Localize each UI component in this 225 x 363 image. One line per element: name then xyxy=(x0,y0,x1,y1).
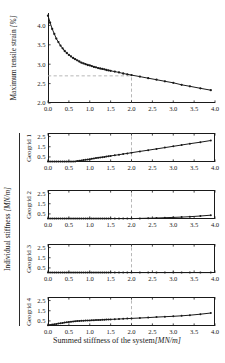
svg-text:1.0: 1.0 xyxy=(86,221,95,228)
svg-text:1.0: 1.0 xyxy=(86,275,95,282)
svg-text:0.5: 0.5 xyxy=(37,210,46,217)
svg-text:1.0: 1.0 xyxy=(86,164,95,171)
svg-text:1.5: 1.5 xyxy=(107,164,116,171)
multi-panel-stiffness-figure: Maximum tensile strain [%] 0.00.51.01.52… xyxy=(0,0,225,363)
svg-text:1.5: 1.5 xyxy=(37,200,46,207)
svg-text:3.5: 3.5 xyxy=(190,328,199,335)
svg-text:1.5: 1.5 xyxy=(37,143,46,150)
svg-text:2.5: 2.5 xyxy=(37,190,46,197)
svg-text:2.5: 2.5 xyxy=(148,164,157,171)
svg-text:0.5: 0.5 xyxy=(65,275,74,282)
svg-text:2.5: 2.5 xyxy=(148,328,157,335)
strain-y-axis-unit: [%] xyxy=(9,15,18,27)
svg-text:3.5: 3.5 xyxy=(190,221,199,228)
group-y-axis-unit: [MN/m] xyxy=(3,187,12,212)
x-axis-title: Summed stiffness of the system[MN/m] xyxy=(12,336,222,345)
svg-text:1.5: 1.5 xyxy=(37,307,46,314)
svg-text:1.5: 1.5 xyxy=(107,275,116,282)
svg-text:0.5: 0.5 xyxy=(65,221,74,228)
geogrid-1-chart: 0.00.51.01.52.02.53.03.54.00.51.52.5 xyxy=(48,133,215,162)
svg-text:2.5: 2.5 xyxy=(148,221,157,228)
svg-text:2.0: 2.0 xyxy=(127,105,136,112)
svg-text:1.5: 1.5 xyxy=(37,254,46,261)
x-axis-title-unit: [MN/m] xyxy=(155,336,181,345)
svg-text:2.0: 2.0 xyxy=(127,164,136,171)
svg-text:4.0: 4.0 xyxy=(211,328,220,335)
geogrid-1-label: Geogrid 1 xyxy=(26,134,33,162)
x-axis-title-text: Summed stiffness of the system xyxy=(53,336,155,345)
svg-text:2.5: 2.5 xyxy=(37,297,46,304)
geogrid-3-chart: 0.00.51.01.52.02.53.03.54.00.51.52.5 xyxy=(48,244,215,273)
svg-text:0.0: 0.0 xyxy=(44,328,53,335)
svg-text:3.5: 3.5 xyxy=(190,164,199,171)
svg-text:2.5: 2.5 xyxy=(148,105,157,112)
geogrid-2-chart: 0.00.51.01.52.02.53.03.54.00.51.52.5 xyxy=(48,190,215,219)
svg-text:0.5: 0.5 xyxy=(65,105,74,112)
svg-text:1.5: 1.5 xyxy=(107,328,116,335)
svg-text:0.0: 0.0 xyxy=(44,221,53,228)
svg-text:0.0: 0.0 xyxy=(44,164,53,171)
svg-text:3.5: 3.5 xyxy=(190,275,199,282)
svg-text:2.0: 2.0 xyxy=(37,99,46,106)
svg-text:0.5: 0.5 xyxy=(37,264,46,271)
svg-text:1.5: 1.5 xyxy=(107,105,116,112)
strain-chart: 0.00.51.01.52.02.53.03.54.02.02.53.03.54… xyxy=(48,13,215,103)
strain-y-axis-label-text: Maximum tensile strain xyxy=(9,27,18,100)
svg-text:3.0: 3.0 xyxy=(169,105,178,112)
strain-y-axis-label: Maximum tensile strain [%] xyxy=(10,15,18,100)
group-y-axis-label: Individual stiffness [MN/m] xyxy=(4,187,12,271)
svg-text:1.0: 1.0 xyxy=(86,105,95,112)
svg-text:0.0: 0.0 xyxy=(44,275,53,282)
svg-text:3.0: 3.0 xyxy=(169,275,178,282)
svg-text:2.5: 2.5 xyxy=(148,275,157,282)
svg-text:4.0: 4.0 xyxy=(211,275,220,282)
geogrid-4-chart: 0.00.51.01.52.02.53.03.54.00.51.52.5 xyxy=(48,297,215,326)
svg-text:3.0: 3.0 xyxy=(169,164,178,171)
svg-text:2.5: 2.5 xyxy=(37,133,46,140)
svg-text:3.5: 3.5 xyxy=(37,41,46,48)
svg-text:2.0: 2.0 xyxy=(127,221,136,228)
svg-text:1.5: 1.5 xyxy=(107,221,116,228)
svg-text:3.5: 3.5 xyxy=(190,105,199,112)
group-bracket-line xyxy=(19,133,20,326)
svg-text:3.0: 3.0 xyxy=(169,328,178,335)
svg-text:0.5: 0.5 xyxy=(65,164,74,171)
svg-text:3.0: 3.0 xyxy=(169,221,178,228)
svg-text:4.0: 4.0 xyxy=(211,221,220,228)
geogrid-3-label: Geogrid 3 xyxy=(26,245,33,273)
svg-text:0.5: 0.5 xyxy=(37,153,46,160)
svg-text:0.5: 0.5 xyxy=(65,328,74,335)
svg-text:3.0: 3.0 xyxy=(37,61,46,68)
svg-text:1.0: 1.0 xyxy=(86,328,95,335)
svg-text:4.0: 4.0 xyxy=(37,22,46,29)
svg-text:2.5: 2.5 xyxy=(37,80,46,87)
svg-text:2.0: 2.0 xyxy=(127,328,136,335)
svg-text:2.0: 2.0 xyxy=(127,275,136,282)
group-y-axis-label-text: Individual stiffness xyxy=(3,212,12,271)
geogrid-2-label: Geogrid 2 xyxy=(26,191,33,219)
svg-text:2.5: 2.5 xyxy=(37,244,46,251)
svg-text:4.0: 4.0 xyxy=(211,105,220,112)
svg-text:0.5: 0.5 xyxy=(37,317,46,324)
svg-text:4.0: 4.0 xyxy=(211,164,220,171)
geogrid-4-label: Geogrid 4 xyxy=(26,298,33,326)
